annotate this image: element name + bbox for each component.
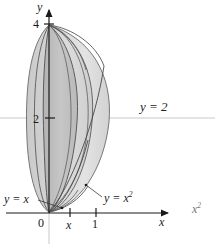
label-parabola-curve: y = x2 — [104, 192, 132, 204]
x-tick-label-1: 1 — [92, 218, 98, 230]
label-parabola-curve-exponent: 2 — [129, 190, 133, 199]
y-tick-label-2: 2 — [33, 113, 39, 125]
margin-note-exponent: 2 — [197, 201, 201, 210]
leader-line-y-equals-x-squared — [86, 185, 102, 197]
label-axis-of-revolution: y = 2 — [140, 100, 168, 113]
origin-label: 0 — [38, 217, 44, 229]
x-tick-label-x: x — [66, 219, 71, 231]
margin-note: x2 — [192, 203, 201, 215]
label-line-curve: y = x — [4, 193, 29, 205]
y-tick-label-4: 4 — [33, 18, 39, 30]
y-axis-label: y — [37, 1, 42, 13]
x-axis-label: x — [159, 216, 164, 228]
label-parabola-curve-text: y = x — [104, 191, 129, 205]
solid-of-revolution-figure: y = 2 y = x y = x2 x2 y x 4 2 0 x 1 — [0, 0, 215, 244]
